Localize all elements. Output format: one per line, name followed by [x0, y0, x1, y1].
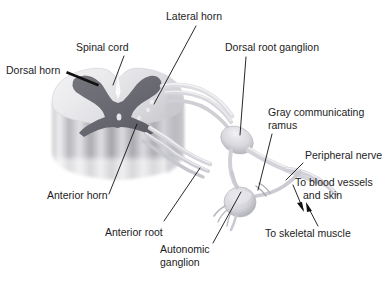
label-peripheral-nerve: Peripheral nerve — [305, 149, 382, 161]
lateral-horn-speck-2 — [146, 108, 150, 112]
central-canal — [117, 113, 122, 120]
arrowhead-to-blood-vessels — [297, 202, 304, 212]
label-spinal-cord: Spinal cord — [76, 41, 129, 53]
label-to-blood-vessels-line1: To blood vessels — [295, 176, 373, 188]
anterior-horn-speck — [137, 116, 141, 121]
anatomy-figure-page: Lateral horn Spinal cord Dorsal horn Dor… — [0, 0, 385, 281]
lateral-horn-speck-1 — [150, 99, 154, 104]
label-gray-communicating-ramus-line2: ramus — [268, 119, 297, 131]
label-gray-communicating-ramus-line1: Gray communicating — [268, 106, 364, 118]
label-to-blood-vessels-line2: and skin — [303, 189, 342, 201]
label-anterior-horn: Anterior horn — [47, 189, 108, 201]
label-autonomic-ganglion-line2: ganglion — [160, 256, 200, 268]
leader-dorsal-root-ganglion — [240, 57, 246, 135]
arrowhead-to-skeletal-muscle — [306, 202, 312, 212]
label-to-skeletal-muscle: To skeletal muscle — [265, 227, 351, 239]
label-dorsal-horn: Dorsal horn — [6, 64, 60, 76]
spinal-cord-diagram: Lateral horn Spinal cord Dorsal horn Dor… — [0, 0, 385, 281]
label-autonomic-ganglion-line1: Autonomic — [160, 243, 210, 255]
sympathetic-chain-stub-lower — [231, 216, 236, 230]
label-dorsal-root-ganglion: Dorsal root ganglion — [225, 41, 319, 53]
gray-ramus-junction-fiber-2 — [259, 183, 270, 193]
label-anterior-root: Anterior root — [105, 226, 163, 238]
label-lateral-horn: Lateral horn — [166, 10, 222, 22]
